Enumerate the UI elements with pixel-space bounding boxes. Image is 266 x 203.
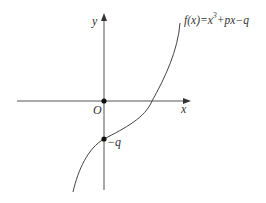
x-axis-label: x (180, 102, 187, 116)
y-axis-label: y (91, 14, 98, 28)
function-label-prefix: f(x)=x (184, 14, 214, 27)
y-intercept-point (101, 136, 106, 141)
cubic-function-diagram: y x O −q f(x)=x3+px−q (0, 0, 266, 203)
function-label: f(x)=x3+px−q (184, 11, 249, 27)
origin-point (101, 98, 106, 103)
y-axis-arrow-icon (101, 13, 107, 21)
origin-label: O (93, 103, 102, 117)
cubic-curve (73, 23, 180, 192)
intercept-label: −q (107, 135, 121, 149)
function-label-suffix: +px−q (217, 14, 249, 27)
